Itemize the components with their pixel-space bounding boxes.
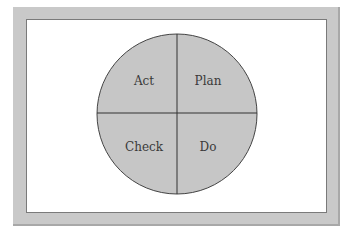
quadrant-check-label: Check [125, 140, 164, 154]
quadrant-plan-label: Plan [195, 74, 222, 88]
pdca-diagram: Act Plan Check Do [0, 0, 353, 233]
quadrant-do-label: Do [200, 140, 217, 154]
quadrant-act-label: Act [133, 74, 154, 88]
